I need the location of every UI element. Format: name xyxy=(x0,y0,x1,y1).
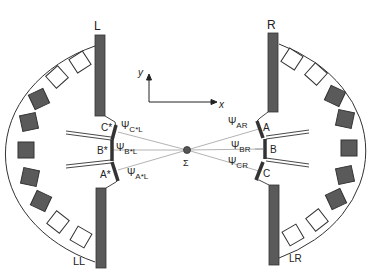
label-psi-CR: ΨCR xyxy=(228,156,248,170)
label-LR: LR xyxy=(289,253,302,264)
label-psi-BR: ΨBR xyxy=(231,140,251,154)
label-x-axis: x xyxy=(218,99,225,110)
detector-block xyxy=(281,48,303,70)
detector-block xyxy=(282,224,304,246)
detector-block xyxy=(21,168,40,187)
coordinate-axes xyxy=(147,74,218,105)
detector-block xyxy=(336,110,355,129)
left-crystals xyxy=(112,125,118,181)
crystal-C-star xyxy=(112,125,116,140)
detector-block xyxy=(18,142,34,158)
label-crystal-B: B xyxy=(270,144,277,155)
detector-block xyxy=(341,140,357,156)
label-psi-A-star-L: ΨA*L xyxy=(127,167,149,181)
detector-block xyxy=(28,88,49,109)
detector-block xyxy=(325,188,346,209)
detector-block xyxy=(306,209,328,231)
detector-block xyxy=(30,190,51,211)
label-psi-C-star-L: ΨC*L xyxy=(121,120,143,134)
detector-block xyxy=(47,211,69,233)
label-y-axis: y xyxy=(137,67,144,78)
crystal-A-star xyxy=(112,162,118,181)
detector-block xyxy=(336,166,355,185)
crystal-C xyxy=(256,162,263,180)
label-crystal-B-star: B* xyxy=(97,145,108,156)
detector-block xyxy=(46,66,69,89)
detector-block xyxy=(20,113,39,132)
spectrometer-diagram: L R LL LR y x Σ C* B* A* ΨC*L ΨB*L ΨA*L … xyxy=(0,0,370,278)
detector-block xyxy=(305,63,328,86)
label-LL: LL xyxy=(73,255,85,267)
label-L: L xyxy=(94,19,101,33)
label-R: R xyxy=(267,18,276,32)
label-crystal-C: C xyxy=(263,168,270,179)
right-detector-blocks xyxy=(281,48,357,246)
label-crystal-A: A xyxy=(263,122,270,133)
label-psi-B-star-L: ΨB*L xyxy=(116,142,138,156)
label-psi-AR: ΨAR xyxy=(228,116,248,130)
label-crystal-C-star: C* xyxy=(101,122,112,133)
y-arrow-icon xyxy=(147,74,152,80)
label-crystal-A-star: A* xyxy=(100,169,111,180)
label-sigma: Σ xyxy=(183,158,189,168)
detector-block xyxy=(70,226,92,248)
center-source-sigma xyxy=(184,147,191,154)
detector-block xyxy=(69,51,91,73)
diagram-canvas: L R LL LR y x Σ C* B* A* ΨC*L ΨB*L ΨA*L … xyxy=(0,0,370,278)
x-arrow-icon xyxy=(211,100,217,105)
